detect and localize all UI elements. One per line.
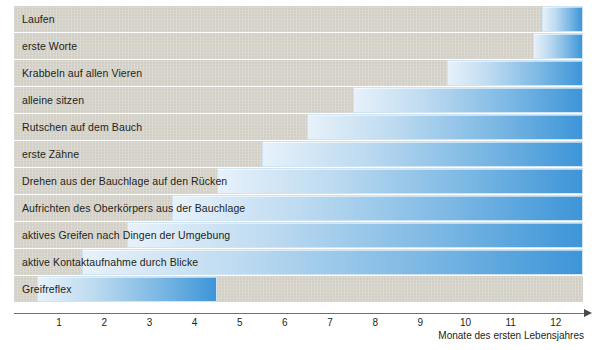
bar-label: Aufrichten des Oberkörpers aus der Bauch… [22, 195, 245, 221]
milestones-bar-chart: Laufenerste WorteKrabbeln auf allen Vier… [0, 0, 602, 350]
bar [353, 87, 583, 113]
table-row: erste Worte [14, 33, 583, 59]
x-axis-tick-label: 11 [505, 317, 515, 328]
table-row: aktive Kontaktaufnahme durch Blicke [14, 249, 583, 275]
bar-label: alleine sitzen [22, 87, 84, 113]
bar [447, 60, 582, 86]
bar [217, 168, 583, 194]
table-row: Krabbeln auf allen Vieren [14, 60, 583, 86]
x-axis-tick-label: 6 [282, 317, 288, 328]
table-row: alleine sitzen [14, 87, 583, 113]
bar [307, 114, 582, 140]
x-axis-tick-label: 1 [56, 317, 62, 328]
x-axis-tick-label: 7 [327, 317, 333, 328]
table-row: Aufrichten des Oberkörpers aus der Bauch… [14, 195, 583, 221]
bar-label: aktives Greifen nach Dingen der Umgebung [22, 222, 230, 248]
x-axis-tick-label: 3 [147, 317, 153, 328]
bar-label: erste Zähne [22, 141, 79, 167]
row-texture [14, 6, 583, 32]
table-row: Greifreflex [14, 276, 583, 302]
table-row: Laufen [14, 6, 583, 32]
bar-label: Krabbeln auf allen Vieren [22, 60, 142, 86]
table-row: Drehen aus der Bauchlage auf den Rücken [14, 168, 583, 194]
x-axis-tick-label: 2 [102, 317, 108, 328]
bar-label: Drehen aus der Bauchlage auf den Rücken [22, 168, 227, 194]
x-axis-line [14, 313, 586, 314]
bar-label: aktive Kontaktaufnahme durch Blicke [22, 249, 198, 275]
x-axis-arrow-icon [584, 309, 592, 317]
x-axis-tick-label: 10 [460, 317, 471, 328]
table-row: Rutschen auf dem Bauch [14, 114, 583, 140]
bar-label: Greifreflex [22, 276, 72, 302]
bar-label: erste Worte [22, 33, 77, 59]
x-axis-tick-label: 8 [372, 317, 378, 328]
table-row: aktives Greifen nach Dingen der Umgebung [14, 222, 583, 248]
row-texture [14, 33, 583, 59]
bar [262, 141, 583, 167]
x-axis-tick-label: 12 [550, 317, 561, 328]
bar-label: Rutschen auf dem Bauch [22, 114, 142, 140]
x-axis-tick-label: 4 [192, 317, 198, 328]
bar [533, 33, 583, 59]
table-row: erste Zähne [14, 141, 583, 167]
plot-area: Laufenerste WorteKrabbeln auf allen Vier… [0, 0, 602, 310]
bar-label: Laufen [22, 6, 55, 32]
x-axis-tick-label: 5 [237, 317, 243, 328]
x-axis-tick-label: 9 [418, 317, 424, 328]
bar [542, 6, 583, 32]
x-axis-title: Monate des ersten Lebensjahres [438, 330, 584, 341]
